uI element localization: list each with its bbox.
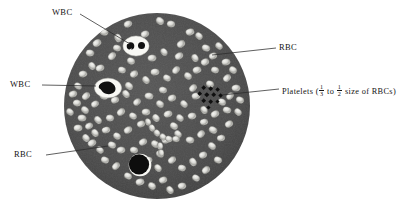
rbc <box>172 136 180 142</box>
fraction-denominator: 3 <box>319 90 324 97</box>
label-wbc-left: WBC <box>10 80 30 89</box>
wbc-dark-leukocyte <box>129 154 152 177</box>
platelets-middle: to <box>325 87 337 96</box>
label-wbc-top: WBC <box>52 8 72 17</box>
wbc-monocyte <box>95 78 122 98</box>
fraction-one-third: 13 <box>319 84 324 98</box>
label-rbc-right: RBC <box>279 43 297 52</box>
platelets-prefix: Platelets ( <box>282 87 319 96</box>
rbc <box>151 69 160 76</box>
rbc <box>158 149 164 157</box>
wbc-neutrophil <box>123 36 149 56</box>
blood-smear-svg <box>0 0 415 203</box>
label-rbc-left: RBC <box>14 150 32 159</box>
platelets-suffix: size of RBCs) <box>342 87 396 96</box>
label-platelets: Platelets (13 to 12 size of RBCs) <box>282 84 396 98</box>
rbc <box>142 109 151 116</box>
blood-smear-figure: WBC WBC RBC RBC Platelets (13 to 12 size… <box>0 0 415 203</box>
rbc <box>73 124 82 131</box>
